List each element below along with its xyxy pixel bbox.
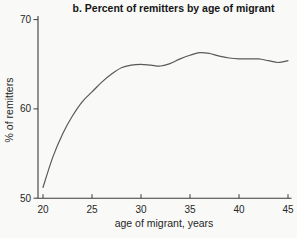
y-tick-label: 70 xyxy=(20,14,32,25)
x-tick-label: 45 xyxy=(282,204,294,215)
y-tick-label: 60 xyxy=(20,103,32,114)
x-tick-label: 20 xyxy=(37,204,49,215)
line-chart: 202530354045506070 xyxy=(0,0,297,238)
x-tick-label: 25 xyxy=(86,204,98,215)
x-tick-label: 35 xyxy=(184,204,196,215)
y-tick-label: 50 xyxy=(20,193,32,204)
figure-panel: b. Percent of remitters by age of migran… xyxy=(0,0,297,238)
x-tick-label: 40 xyxy=(233,204,245,215)
x-tick-label: 30 xyxy=(135,204,147,215)
remitters-curve xyxy=(43,53,288,188)
axis-lines xyxy=(38,16,292,198)
